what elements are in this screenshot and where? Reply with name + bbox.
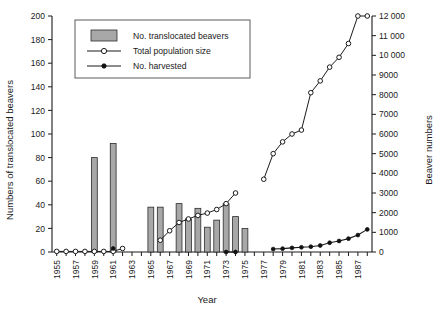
population-point-1985 (337, 55, 342, 60)
bar-translocated-1961 (110, 143, 116, 252)
population-point-1955 (54, 249, 59, 254)
right-axis-tick-label: 4000 (379, 168, 398, 178)
left-axis-tick-label: 100 (31, 129, 45, 139)
right-axis-tick-label: 8000 (379, 90, 398, 100)
harvested-point-1984 (328, 241, 332, 245)
bar-translocated-1973 (223, 204, 229, 252)
population-segment (264, 16, 368, 179)
population-point-1987 (356, 14, 361, 19)
x-axis-tick-label: 1987 (353, 260, 363, 279)
population-point-1983 (318, 79, 323, 84)
left-axis-tick-label: 160 (31, 58, 45, 68)
left-axis-tick-label: 80 (36, 153, 46, 163)
population-point-1967 (167, 228, 172, 233)
right-axis-tick-label: 7000 (379, 109, 398, 119)
right-axis-tick-label: 10 000 (379, 50, 405, 60)
left-axis-tick-label: 0 (40, 247, 45, 257)
left-axis-tick-label: 180 (31, 35, 45, 45)
population-point-1974 (233, 191, 238, 196)
population-point-1984 (327, 65, 332, 70)
harvested-point-1973 (224, 250, 228, 254)
x-axis-tick-label: 1981 (297, 260, 307, 279)
legend-label-1: Total population size (133, 46, 211, 56)
population-point-1972 (214, 207, 219, 212)
legend-bar-swatch (91, 30, 117, 41)
x-axis-tick-label: 1965 (146, 260, 156, 279)
population-point-1988 (365, 14, 370, 19)
right-axis-title: Beaver numbers (423, 115, 434, 185)
x-axis-tick-label: 1959 (90, 260, 100, 279)
chart-legend: No. translocated beaversTotal population… (75, 20, 250, 78)
harvested-point-1987 (356, 233, 360, 237)
bar-translocated-1969 (186, 219, 192, 252)
right-axis-tick-label: 1000 (379, 227, 398, 237)
population-point-1978 (271, 151, 276, 156)
bar-translocated-1965 (148, 207, 154, 252)
x-axis-tick-label: 1975 (240, 260, 250, 279)
population-point-1981 (299, 128, 304, 133)
harvested-point-1982 (309, 245, 313, 249)
left-axis: 020406080100120140160180200 (31, 11, 52, 257)
harvested-point-1961 (111, 247, 115, 251)
chart-canvas: 020406080100120140160180200 010002000300… (0, 0, 441, 314)
x-axis-tick-label: 1963 (127, 260, 137, 279)
left-axis-tick-label: 40 (36, 200, 46, 210)
x-axis-tick-label: 1983 (315, 260, 325, 279)
right-axis-tick-label: 3000 (379, 188, 398, 198)
left-axis-tick-label: 200 (31, 11, 45, 21)
population-point-1973 (224, 201, 229, 206)
population-point-1980 (290, 132, 295, 137)
population-point-1956 (64, 249, 69, 254)
harvested-point-1980 (290, 246, 294, 250)
left-axis-tick-label: 60 (36, 176, 46, 186)
bar-translocated-1975 (242, 228, 248, 252)
bar-translocated-1971 (204, 227, 210, 252)
bar-translocated-1972 (214, 220, 220, 252)
harvested-point-1985 (337, 239, 341, 243)
x-axis-tick-label: 1967 (165, 260, 175, 279)
right-axis-tick-label: 12 000 (379, 11, 405, 21)
left-axis-tick-label: 120 (31, 106, 45, 116)
population-point-1960 (101, 249, 106, 254)
population-point-1957 (73, 249, 78, 254)
right-axis-tick-label: 9000 (379, 70, 398, 80)
population-point-1958 (83, 249, 88, 254)
harvested-point-1983 (318, 244, 322, 248)
bar-translocated-1959 (91, 158, 97, 252)
x-axis: 1955195719591961196319651967196919711973… (52, 252, 372, 279)
bar-translocated-1974 (233, 217, 239, 252)
right-axis-tick-label: 5000 (379, 149, 398, 159)
right-axis: 010002000300040005000600070008000900010 … (372, 11, 405, 257)
legend-population-marker (101, 48, 106, 53)
harvested-point-1981 (300, 245, 304, 249)
harvested-point-1988 (365, 227, 369, 231)
population-point-1979 (280, 140, 285, 145)
right-axis-tick-label: 2000 (379, 208, 398, 218)
x-axis-tick-label: 1979 (278, 260, 288, 279)
translocated-beavers-bars (91, 143, 247, 252)
population-point-1966 (158, 238, 163, 243)
x-axis-tick-label: 1971 (202, 260, 212, 279)
legend-harvested-marker (102, 64, 106, 68)
harvested-point-1974 (234, 250, 238, 254)
population-point-1986 (346, 41, 351, 46)
x-axis-title: Year (197, 294, 216, 305)
harvested-point-1986 (347, 237, 351, 241)
x-axis-tick-label: 1977 (259, 260, 269, 279)
population-point-1962 (120, 246, 125, 251)
population-point-1959 (92, 249, 97, 254)
population-point-1982 (309, 90, 314, 95)
legend-label-0: No. translocated beavers (133, 31, 229, 41)
x-axis-tick-label: 1961 (108, 260, 118, 279)
right-axis-tick-label: 6000 (379, 129, 398, 139)
bar-translocated-1966 (157, 207, 163, 252)
x-axis-tick-label: 1955 (52, 260, 62, 279)
left-axis-tick-label: 140 (31, 82, 45, 92)
x-axis-tick-label: 1973 (221, 260, 231, 279)
population-point-1969 (186, 217, 191, 222)
left-axis-tick-label: 20 (36, 224, 46, 234)
x-axis-tick-label: 1969 (184, 260, 194, 279)
x-axis-tick-label: 1957 (71, 260, 81, 279)
right-axis-tick-label: 0 (379, 247, 384, 257)
bar-translocated-1968 (176, 204, 182, 252)
